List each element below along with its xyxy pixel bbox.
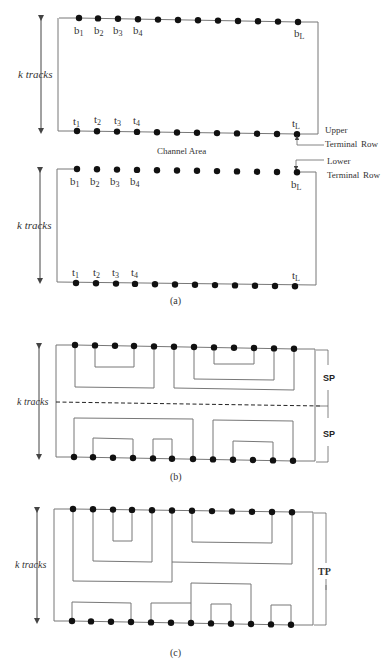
k-tracks-label: k tracks <box>15 559 46 570</box>
lower-terminal-row <box>74 457 294 461</box>
svg-text:t1: t1 <box>72 266 79 280</box>
svg-text:bL: bL <box>294 27 305 41</box>
sp-brackets <box>316 350 328 462</box>
block-outline-left <box>56 345 75 457</box>
svg-text:b1: b1 <box>74 24 84 38</box>
upper-terminal-row <box>73 509 294 512</box>
upper-terminal-row <box>75 345 296 349</box>
sp-bottom-label: SP <box>323 429 335 439</box>
figure-c: k tracks TP <box>15 506 334 659</box>
caption-c: (c) <box>170 647 181 659</box>
k-tracks-label: k tracks <box>18 68 53 80</box>
bottom-block-b-labels: b1 b2 b3 b4 bL <box>70 175 302 192</box>
block-outline-right <box>294 349 315 461</box>
svg-text:t3: t3 <box>114 114 121 128</box>
block-outline-left <box>54 509 73 621</box>
svg-text:t4: t4 <box>133 114 140 128</box>
partition-dashed-line <box>56 402 322 406</box>
svg-text:bL: bL <box>291 178 302 192</box>
block-outline-right <box>292 512 313 625</box>
channel-routing-figure: k tracks b1 b2 b3 b4 bL t1 t2 t3 t4 tL C… <box>0 0 392 669</box>
figure-a: k tracks b1 b2 b3 b4 bL t1 t2 t3 t4 tL C… <box>17 15 381 307</box>
upper-terminal-arrow <box>297 138 324 145</box>
svg-text:t1: t1 <box>73 115 80 129</box>
lower-terminal-row <box>72 621 292 625</box>
upper-label: Upper <box>325 125 348 135</box>
bottom-block-t-labels: t1 t2 t3 t4 tL <box>72 266 300 283</box>
svg-text:b3: b3 <box>113 24 123 38</box>
sp-top-label: SP <box>323 373 335 383</box>
top-block-b-labels: b1 b2 b3 b4 bL <box>74 24 305 41</box>
svg-text:t2: t2 <box>93 266 100 280</box>
figure-b: k tracks <box>17 342 335 483</box>
bottom-block-upper-pins <box>74 166 300 176</box>
channel-area-label: Channel Area <box>157 146 206 156</box>
svg-text:tL: tL <box>292 269 300 283</box>
svg-text:t4: t4 <box>131 266 138 280</box>
svg-text:tL: tL <box>292 117 300 131</box>
svg-text:t2: t2 <box>94 113 101 127</box>
k-tracks-label: k tracks <box>17 396 48 407</box>
nets <box>72 509 292 625</box>
svg-text:b1: b1 <box>70 175 80 189</box>
svg-text:b2: b2 <box>90 175 100 189</box>
caption-b: (b) <box>170 471 182 483</box>
svg-text:b3: b3 <box>110 175 120 189</box>
lower-label: Lower <box>327 156 351 166</box>
top-block-t-labels: t1 t2 t3 t4 tL <box>73 113 300 131</box>
lower-row-label: Row <box>363 170 381 180</box>
upper-nets <box>75 345 294 390</box>
svg-text:b2: b2 <box>94 24 104 38</box>
lower-terminal-label: Terminal <box>327 170 360 180</box>
svg-text:b4: b4 <box>130 175 140 189</box>
caption-a: (a) <box>170 295 181 307</box>
lower-terminal-arrow <box>296 160 324 168</box>
lower-nets <box>74 418 293 461</box>
tp-label: TP <box>318 566 331 577</box>
upper-terminal-label: Terminal <box>325 139 358 149</box>
svg-text:b4: b4 <box>133 24 143 38</box>
k-tracks-label: k tracks <box>17 219 52 231</box>
upper-row-label: Row <box>361 139 379 149</box>
svg-text:t3: t3 <box>112 266 119 280</box>
